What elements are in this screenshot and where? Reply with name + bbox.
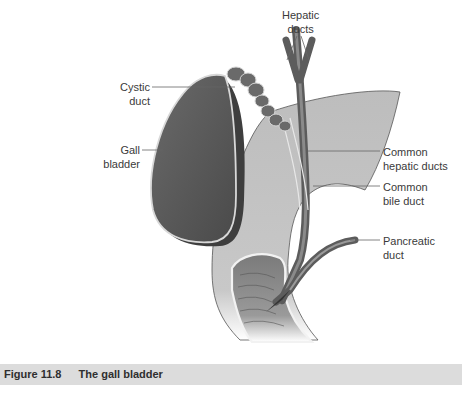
- label-line: ducts: [282, 22, 319, 36]
- label-line: duct: [112, 94, 150, 108]
- figure-number: Figure 11.8: [4, 368, 61, 380]
- label-line: Pancreatic: [383, 234, 435, 248]
- label-line: Common: [383, 145, 448, 159]
- figure-title: The gall bladder: [79, 368, 163, 380]
- label-line: Common: [383, 180, 428, 194]
- label-gall-bladder: Gall bladder: [98, 143, 140, 171]
- label-common-hepatic-ducts: Common hepatic ducts: [383, 145, 448, 173]
- label-line: Hepatic: [282, 8, 319, 22]
- label-line: bladder: [98, 157, 140, 171]
- gall-bladder-diagram: Hepatic ducts Cystic duct Gall bladder C…: [0, 0, 462, 360]
- gall-bladder: [151, 75, 236, 243]
- label-line: duct: [383, 248, 435, 262]
- figure-caption-bar: Figure 11.8 The gall bladder: [0, 364, 462, 385]
- label-line: Cystic: [112, 80, 150, 94]
- label-hepatic-ducts: Hepatic ducts: [282, 8, 319, 36]
- label-cystic-duct: Cystic duct: [112, 80, 150, 108]
- figure-caption: Figure 11.8 The gall bladder: [4, 367, 163, 382]
- label-line: hepatic ducts: [383, 159, 448, 173]
- label-common-bile-duct: Common bile duct: [383, 180, 428, 208]
- label-pancreatic-duct: Pancreatic duct: [383, 234, 435, 262]
- label-line: Gall: [98, 143, 140, 157]
- label-line: bile duct: [383, 194, 428, 208]
